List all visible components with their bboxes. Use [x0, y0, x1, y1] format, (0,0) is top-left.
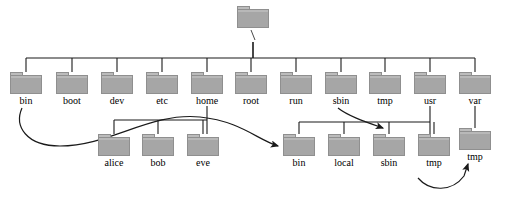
folder-icon-sheen — [188, 138, 218, 140]
folder-icon-sheen — [238, 10, 268, 12]
folder-icon-sheen — [57, 76, 87, 78]
folder-icon-sheen — [236, 76, 266, 78]
node-var[interactable] — [459, 72, 491, 94]
node-usr-local[interactable] — [328, 134, 360, 156]
node-usr[interactable] — [414, 72, 446, 94]
filesystem-tree-diagram: bin boot dev etc home root run s — [0, 0, 505, 210]
node-etc[interactable] — [146, 72, 178, 94]
folder-icon-sheen — [147, 76, 177, 78]
node-tmp[interactable] — [369, 72, 401, 94]
root-connector — [251, 30, 255, 58]
node-run[interactable] — [280, 72, 312, 94]
node-root-dir[interactable] — [235, 72, 267, 94]
node-boot[interactable] — [56, 72, 88, 94]
label-var: var — [449, 95, 501, 106]
node-home[interactable] — [191, 72, 223, 94]
node-usr-sbin[interactable] — [373, 134, 405, 156]
node-dev[interactable] — [101, 72, 133, 94]
folder-icon-sheen — [419, 138, 449, 140]
usr-subtree-connector — [299, 106, 434, 134]
node-home-alice[interactable] — [98, 134, 130, 156]
node-home-bob[interactable] — [142, 134, 174, 156]
level1-bus — [26, 58, 475, 72]
folder-icon-sheen — [192, 76, 222, 78]
folder-icon-sheen — [329, 138, 359, 140]
node-home-eve[interactable] — [187, 134, 219, 156]
folder-icon-sheen — [460, 132, 490, 134]
folder-icon-sheen — [143, 138, 173, 140]
node-root-folder[interactable] — [237, 6, 269, 28]
label-bin: bin — [0, 95, 52, 106]
node-bin[interactable] — [10, 72, 42, 94]
folder-icon-sheen — [415, 76, 445, 78]
node-var-tmp[interactable] — [459, 128, 491, 150]
symlink-sbin-to-usr-sbin — [338, 108, 383, 128]
folder-icon-sheen — [11, 76, 41, 78]
label-home-eve: eve — [177, 157, 229, 168]
folder-icon-sheen — [374, 138, 404, 140]
label-var-tmp: tmp — [449, 151, 501, 162]
folder-icon-sheen — [370, 76, 400, 78]
node-usr-bin[interactable] — [283, 134, 315, 156]
folder-icon-sheen — [102, 76, 132, 78]
node-usr-tmp[interactable] — [418, 134, 450, 156]
folder-icon-sheen — [460, 76, 490, 78]
folder-icon-sheen — [326, 76, 356, 78]
node-sbin[interactable] — [325, 72, 357, 94]
folder-icon-sheen — [284, 138, 314, 140]
folder-icon-sheen — [99, 138, 129, 140]
folder-icon-sheen — [281, 76, 311, 78]
